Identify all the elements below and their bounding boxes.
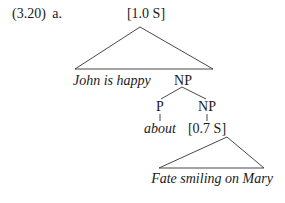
example-number: (3.20) a. (12, 7, 62, 21)
root-node-label: [1.0 S] (127, 7, 165, 21)
inner-s-label: [0.7 S] (188, 122, 226, 136)
p-label: P (156, 100, 164, 114)
inner-triangle-text: Fate smiling on Mary (151, 172, 273, 186)
np-inner-label: NP (198, 100, 216, 114)
root-triangle-text: John is happy (73, 74, 151, 88)
inner-triangle (159, 137, 264, 168)
p-word: about (144, 122, 176, 136)
np-to-p-branch (161, 87, 182, 99)
example-number-text: (3.20) (12, 6, 46, 21)
np-to-np-branch (182, 87, 206, 99)
example-letter: a. (52, 6, 62, 21)
np-top-label: NP (174, 74, 192, 88)
root-triangle (75, 27, 213, 69)
